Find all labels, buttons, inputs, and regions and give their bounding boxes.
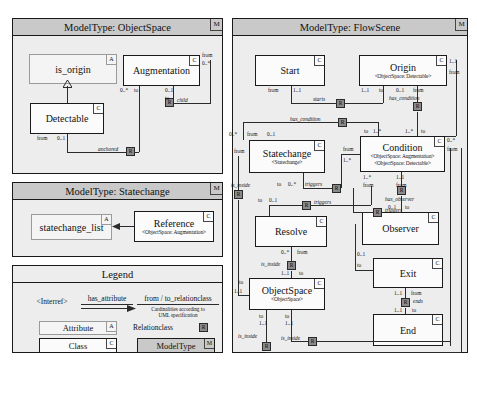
cardinality-label: 0..1 [388,204,396,210]
relationclass-marker-starts[interactable]: R [336,99,345,108]
relationclass-marker-is-inside-2[interactable]: R [234,190,243,199]
attribute-box-is-origin-label: is_origin [55,64,91,75]
cardinality-label: 0..1 [267,131,275,137]
cardinality-label: 1..1 [293,87,301,93]
cardinality-label: 1..1 [281,270,289,276]
cardinality-label: 1..* [363,174,371,180]
cardinality-label: to [412,307,416,313]
class-box-condition[interactable]: Condition <ObjectSpace: Augmentation> <O… [360,136,445,172]
relation-line [417,112,418,136]
panel-legend-header: Legend [13,266,222,283]
relationclass-marker-label: R [376,209,380,215]
relationclass-marker-label: R [341,119,345,125]
attribute-tag-icon: A [106,55,116,65]
class-box-resolve[interactable]: Resolve C [255,216,327,247]
relationclass-marker-ends[interactable]: R [401,298,410,307]
relationclass-marker-triggers-2[interactable]: R [302,201,311,210]
relationclass-marker-label: R [265,343,269,349]
cardinality-label: 1..1 [285,320,293,326]
class-box-detectable[interactable]: Detectable C [30,103,104,134]
class-box-objectspace[interactable]: ObjectSpace <ObjectSpace> C [249,278,325,310]
cardinality-label: to [357,262,361,268]
cardinality-label: to [285,313,289,319]
class-box-statechange-label: Statechange [263,148,311,159]
interref-arrow-icon [112,223,120,230]
relationclass-marker-label: R [416,103,420,109]
relation-line [291,247,292,261]
relation-line [353,188,354,212]
attribute-box-statechange-list[interactable]: statechange_list A [31,214,112,240]
panel-statechange-header: ModelType: Statechange M [13,183,222,200]
panel-objectspace[interactable]: ModelType: ObjectSpace M is_origin A Aug… [12,18,223,174]
panel-legend-title: Legend [102,269,134,280]
class-box-objectspace-stereotype: <ObjectSpace> [271,296,303,302]
relation-line [405,288,406,298]
attribute-box-statechange-list-label: statechange_list [40,222,104,233]
legend-relationclass-cardinality-label: from / to_relationclass [137,295,219,305]
relationclass-marker-is-inside[interactable]: R [287,261,296,270]
cardinality-label: from [396,182,406,188]
cardinality-label: to [364,128,368,134]
class-box-objectspace-label: ObjectSpace [262,285,313,296]
legend-relationclass-marker[interactable]: R [199,323,208,332]
class-tag-icon: C [93,104,103,114]
relationclass-marker-is-inside-3[interactable]: R [262,342,271,351]
relation-label-has-observer: has_observer [385,196,414,202]
relation-line [266,352,461,353]
relationclass-marker-label: R [237,191,241,197]
relationclass-marker-triggers[interactable]: R [332,184,341,193]
class-box-statechange[interactable]: Statechange <Statechange> C [249,140,325,173]
cardinality-label: 1..1 [234,288,242,294]
class-box-condition-label: Condition [382,142,422,153]
class-box-exit[interactable]: Exit C [373,258,443,288]
cardinality-label: to [165,95,169,101]
panel-legend[interactable]: Legend <Interref> has_attribute from / t… [12,265,223,353]
class-box-detectable-label: Detectable [46,113,89,124]
class-tag-icon: C [432,315,442,325]
cardinality-label: 1..* [405,128,413,134]
modeltype-tag-icon: M [204,339,214,349]
class-box-augmentation[interactable]: Augmentation C [123,55,200,86]
cardinality-label: 0..1 [165,87,173,93]
relation-line [311,205,371,206]
modeltype-corner-icon: M [210,19,222,31]
attribute-tag-icon: A [101,215,111,225]
relationclass-marker-label: R [311,338,315,344]
relation-label-is-inside: is_inside [261,261,280,267]
panel-flowscene[interactable]: ModelType: FlowScene M Start C Origin <O… [232,18,468,353]
class-tag-icon: C [106,339,116,349]
relation-label-is-inside-2: is_inside [231,182,250,188]
panel-statechange[interactable]: ModelType: Statechange M statechange_lis… [12,182,223,257]
class-box-origin[interactable]: Origin <ObjectSpace: Detectable> C [359,55,447,86]
legend-class-box[interactable]: Class C [39,338,117,353]
relationclass-marker-label: R [129,148,133,154]
legend-modeltype-box[interactable]: ModelType M [137,338,215,353]
legend-attribute-box[interactable]: Attribute A [39,321,117,335]
cardinality-label: from [268,87,278,93]
cardinality-label: 0..1 [396,87,404,93]
cardinality-label: 0..1 [357,251,365,257]
legend-relationclass-label: Relationclass [133,324,195,333]
relationclass-marker-triggers-3[interactable]: R [373,208,382,217]
relationclass-marker-is-inside-4[interactable]: R [308,337,317,346]
relation-line [291,103,336,104]
relation-line [210,60,211,103]
attribute-box-is-origin[interactable]: is_origin A [29,54,117,84]
class-box-reference[interactable]: Reference <ObjectSpace: Augmentation> C [134,211,214,242]
cardinality-label: from [447,146,457,152]
cardinality-label: from [413,87,423,93]
relationclass-marker-label: R [305,202,309,208]
relation-line [291,271,292,278]
legend-has-attribute-label: has_attribute [81,295,133,305]
class-tag-icon: C [428,213,438,223]
relation-label-starts: starts [313,96,325,102]
relation-line [371,186,372,205]
class-box-start[interactable]: Start C [255,55,325,86]
relationclass-marker-has-condition[interactable]: R [413,102,422,111]
class-tag-icon: C [314,141,324,151]
relation-line [291,86,292,103]
relationclass-marker-has-condition-2[interactable]: R [338,118,347,127]
cardinality-label: to [299,270,303,276]
relationclass-marker-anchored[interactable]: R [126,147,135,156]
cardinality-label: from [363,182,373,188]
